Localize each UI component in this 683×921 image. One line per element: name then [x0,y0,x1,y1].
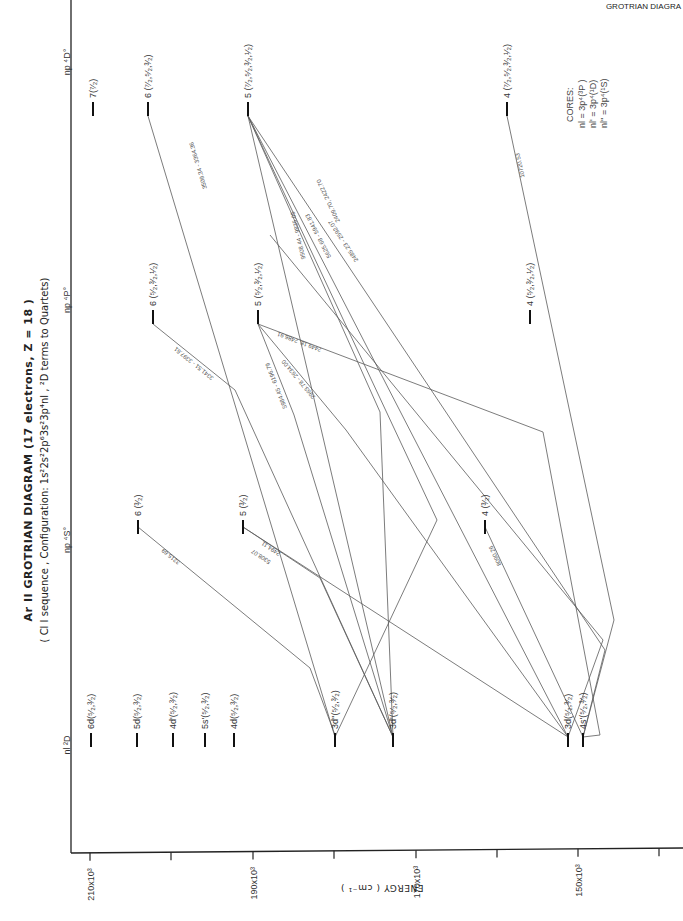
wavelength-label: 3215.69 [160,547,181,566]
cores-legend: CORES: nl = 3p⁴(³P ) nl' = 3p⁴(¹D) nl'' … [565,78,609,128]
level-label-6d: 6d(⁵⁄₂,³⁄₂) [86,694,96,729]
corner-header-text: GROTRIAN DIAGRA [606,2,682,11]
cores-line-nl: nl = 3p⁴(³P ) [577,80,587,128]
level-label-D7: 7(⁷⁄₂) [88,79,98,98]
transition-line [243,527,568,737]
level-label-P5: 5 (⁵⁄₂,³⁄₂,¹⁄₂) [253,263,263,306]
level-label-4sp: 4s'(⁵⁄₂,³⁄₂) [578,693,588,729]
cores-line-nl-prime: nl' = 3p⁴(¹D) [588,80,598,128]
energy-axis [71,848,683,853]
transition-line [248,116,393,737]
diagram-title: Ar II GROTRIAN DIAGRAM (17 electrons, Z … [22,299,35,622]
column-header-np4S: np ⁴S° [62,527,72,553]
transition-line [148,116,335,737]
level-label-D6: 6 (⁷⁄₂,⁵⁄₂,³⁄₂) [143,55,153,98]
wavelength-label: 10720.53 [514,152,525,178]
level-label-D5: 5 (⁷⁄₂,⁵⁄₂,³⁄₂,¹⁄₂) [243,44,253,98]
diagram-subtitle: ( Cl I sequence , Configuration: 1s²2s²2… [39,277,50,642]
cores-title: CORES: [565,87,575,122]
wavelength-label: 3509.34 - 3364.36 [188,141,208,190]
wavelength-label: 8090.26 [488,544,503,567]
grotrian-diagram: GROTRIAN DIAGRA Ar II GROTRIAN DIAGRAM (… [0,0,683,921]
level-label-4dp: 4d'(⁵⁄₂,³⁄₂) [168,692,178,729]
wavelength-label: 3341.51 - 3397.61 [172,346,214,382]
energy-levels: 6d(⁵⁄₂,³⁄₂)5d(⁵⁄₂,³⁄₂)4d'(⁵⁄₂,³⁄₂)5s'(⁵⁄… [86,44,588,747]
level-label-3dp: 3d'(⁵⁄₂,³⁄₂) [388,692,398,729]
level-label-3dpp: 3d''(⁵⁄₂,³⁄₂) [330,690,340,729]
level-label-P4: 4 (⁵⁄₂,³⁄₂,¹⁄₂) [525,263,535,306]
level-label-S6: 6 (³⁄₂) [133,495,143,517]
axis-tick-label: 150x10³ [574,864,584,897]
energy-axis-title: ENERGY ( cm⁻¹ ) [340,883,423,893]
transition-line [507,116,614,737]
axis-tick-label: 190x10³ [249,867,259,900]
column-header-nl2D: nl ²D [62,735,72,755]
level-label-S4: 4 (³⁄₂) [480,495,490,517]
level-label-4d: 4d(⁵⁄₂,³⁄₂) [229,694,239,729]
transition-line [248,116,605,737]
level-label-5sp: 5s'(⁵⁄₂,³⁄₂) [200,693,210,729]
transition-line [248,116,568,737]
cores-line-nl-double-prime: nl'' = 3p⁴(¹S) [599,78,609,128]
level-label-P6: 6 (⁵⁄₂,³⁄₂,¹⁄₂) [148,263,158,306]
level-label-3d: 3d(⁵⁄₂,³⁄₂) [563,694,573,729]
level-label-5d: 5d(⁵⁄₂,³⁄₂) [132,694,142,729]
level-label-D4: 4 (⁷⁄₂,⁵⁄₂,³⁄₂,¹⁄₂) [502,44,512,98]
level-label-S5: 5 (³⁄₂) [238,495,248,517]
column-header-np4P: np ⁴P° [62,287,72,313]
axis-tick-label: 210x10³ [86,868,96,901]
transition-lines: 3215.692494.115308.078090.263341.51 - 33… [138,116,614,737]
column-header-np4D: np ⁴D° [62,48,72,75]
transition-line [248,116,437,737]
wavelength-label: 2409.70, 2422.70 [315,178,341,223]
